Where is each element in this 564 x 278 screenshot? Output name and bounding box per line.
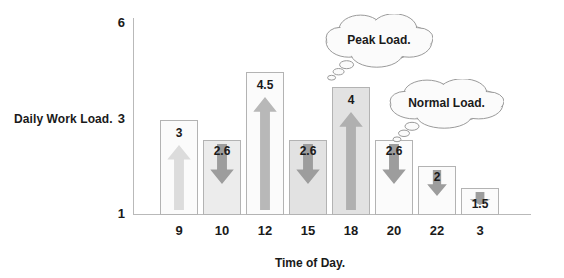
bar[interactable]: 3 — [160, 120, 198, 215]
x-tick-label: 15 — [289, 224, 327, 237]
x-tick-label: 12 — [246, 224, 284, 237]
bar[interactable]: 4.5 — [246, 72, 284, 215]
bar-value-label: 4.5 — [247, 79, 283, 91]
chart-canvas: Daily Work Load. 6 3 1 32.64.52.642.621.… — [0, 0, 564, 278]
x-axis-title: Time of Day. — [0, 256, 564, 270]
x-tick-label: 22 — [418, 224, 456, 237]
y-tick-label: 6 — [101, 16, 125, 29]
x-tick-label: 9 — [160, 224, 198, 237]
bar-value-label: 2 — [419, 171, 455, 183]
bar-value-label: 3 — [161, 127, 197, 139]
y-tick-label: 1 — [101, 207, 125, 220]
bar-value-label: 2.6 — [290, 145, 326, 157]
y-tick-label: 3 — [101, 112, 125, 125]
y-axis-tick-labels: 6 3 1 — [95, 0, 125, 278]
x-tick-label: 3 — [461, 224, 499, 237]
bar[interactable]: 4 — [332, 87, 370, 215]
x-axis-title-text: Time of Day. — [275, 256, 345, 270]
bar[interactable]: 1.5 — [461, 188, 499, 215]
x-tick-label: 18 — [332, 224, 370, 237]
bar[interactable]: 2 — [418, 166, 456, 215]
thought-bubble: Normal Load. — [389, 79, 504, 153]
trend-up-arrow-icon — [167, 145, 191, 214]
x-tick-label: 10 — [203, 224, 241, 237]
bar[interactable]: 2.6 — [289, 140, 327, 215]
trend-up-arrow-icon — [339, 112, 363, 214]
bar-value-label: 2.6 — [204, 145, 240, 157]
bar[interactable]: 2.6 — [203, 140, 241, 215]
x-tick-label: 20 — [375, 224, 413, 237]
trend-up-arrow-icon — [253, 97, 277, 214]
bar-value-label: 1.5 — [462, 198, 498, 210]
bar-value-label: 4 — [333, 94, 369, 106]
